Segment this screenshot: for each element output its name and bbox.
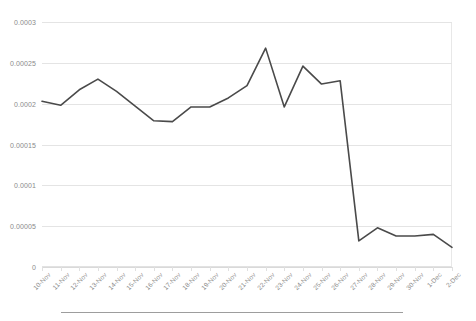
y-axis-tick-label: 0.0001 [14,182,36,189]
x-axis: 10-Nov11-Nov12-Nov13-Nov14-Nov15-Nov16-N… [42,271,452,307]
y-axis-tick-label: 0.0003 [14,19,36,26]
y-axis: 00.000050.00010.000150.00020.000250.0003 [0,22,40,267]
y-axis-tick-label: 0.00025 [10,59,36,66]
y-axis-tick-label: 0 [32,264,36,271]
x-axis-tick-mark [452,267,453,271]
series-1-line [42,48,452,247]
y-axis-tick-label: 0.00015 [10,141,36,148]
y-axis-tick-label: 0.0002 [14,100,36,107]
y-axis-tick-label: 0.00005 [10,223,36,230]
legend-divider-rule [61,312,403,313]
line-chart: 00.000050.00010.000150.00020.000250.0003… [0,0,476,321]
series-line-group [42,22,452,267]
